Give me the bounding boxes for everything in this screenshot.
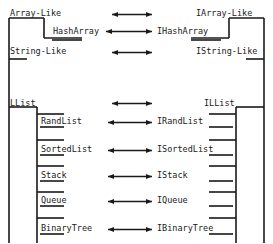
class-label-sortedlist: SortedList <box>41 144 92 154</box>
class-label-stack: Stack <box>41 170 67 180</box>
interface-label-istack: IStack <box>157 170 188 180</box>
interface-label-iqueue: IQueue <box>157 195 188 205</box>
class-label-llist: LList <box>10 98 36 108</box>
class-label-hasharray: HashArray <box>53 26 99 36</box>
interface-label-isortedlist: ISortedList <box>157 144 213 154</box>
class-interface-diagram: Array-Like HashArray String-Like LList R… <box>0 0 273 244</box>
class-label-string-like: String-Like <box>10 46 66 56</box>
correspondence-arrows <box>106 15 152 230</box>
class-label-binarytree: BinaryTree <box>41 223 92 233</box>
interface-label-irandlist: IRandList <box>157 116 203 126</box>
interface-label-ihasharray: IHashArray <box>157 26 208 36</box>
class-label-array-like: Array-Like <box>10 8 61 18</box>
interface-label-istring-like: IString-Like <box>196 46 257 56</box>
interface-label-iarray-like: IArray-Like <box>196 8 252 18</box>
interface-label-illist: ILList <box>204 98 235 108</box>
right-illist-bracket <box>209 107 264 243</box>
interface-label-ibinarytree: IBinaryTree <box>157 223 213 233</box>
class-label-randlist: RandList <box>41 116 82 126</box>
class-label-queue: Queue <box>41 195 67 205</box>
